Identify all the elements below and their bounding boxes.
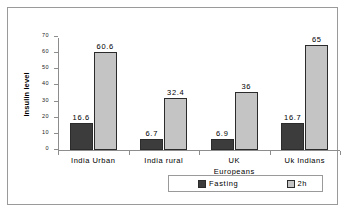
bar-value-label: 65 xyxy=(295,35,338,44)
y-axis-tick: 70 xyxy=(54,36,58,37)
y-axis-title-label: Insulin level xyxy=(22,72,31,116)
bar-value-label: 6.7 xyxy=(130,129,173,138)
bar-value-label: 36 xyxy=(225,82,268,91)
y-axis-tick: 50 xyxy=(54,68,58,69)
bar-value-label: 32.4 xyxy=(154,88,197,97)
bar-value-label: 60.6 xyxy=(84,42,127,51)
chart-frame: Insulin level 010203040506070 16.660.66.… xyxy=(7,7,338,205)
bar-fasting[interactable] xyxy=(70,123,93,150)
y-axis-tick-label: 0 xyxy=(46,145,49,151)
y-axis-tick: 60 xyxy=(54,52,58,53)
bar-value-label: 16.7 xyxy=(271,113,314,122)
y-axis-tick: 20 xyxy=(54,117,58,118)
y-axis-tick-label: 10 xyxy=(42,129,49,135)
bar-fasting[interactable] xyxy=(281,123,304,150)
y-axis-tick: 0 xyxy=(54,149,58,150)
y-axis-tick-label: 30 xyxy=(42,97,49,103)
fasting-swatch-icon xyxy=(198,180,206,188)
y-axis-tick: 40 xyxy=(54,84,58,85)
y-axis-tick-label: 50 xyxy=(42,64,49,70)
x-axis-category-label: Uk Indians xyxy=(260,155,347,166)
bar-twohour[interactable] xyxy=(164,98,187,150)
y-axis-title: Insulin level xyxy=(19,46,33,142)
bar-twohour[interactable] xyxy=(305,45,328,150)
legend-label-fasting: Fasting xyxy=(209,179,239,188)
bar-fasting[interactable] xyxy=(140,139,163,150)
legend-item-fasting[interactable]: Fasting xyxy=(198,179,239,188)
bar-twohour[interactable] xyxy=(235,92,258,150)
bar-value-label: 16.6 xyxy=(60,113,103,122)
y-axis-tick-label: 20 xyxy=(42,113,49,119)
y-axis-tick-label: 40 xyxy=(42,80,49,86)
twohour-swatch-icon xyxy=(287,180,295,188)
y-axis-tick-label: 60 xyxy=(42,48,49,54)
chart-legend: Fasting 2h xyxy=(168,175,323,192)
plot-area: 010203040506070 16.660.66.732.46.93616.7… xyxy=(58,38,340,151)
bar-value-label: 6.9 xyxy=(201,129,244,138)
legend-item-2h[interactable]: 2h xyxy=(287,179,308,188)
y-axis-tick: 30 xyxy=(54,101,58,102)
y-axis-line xyxy=(58,38,59,151)
y-axis-tick-label: 70 xyxy=(42,32,49,38)
bar-twohour[interactable] xyxy=(94,52,117,150)
y-axis-tick: 10 xyxy=(54,133,58,134)
bar-fasting[interactable] xyxy=(211,139,234,150)
legend-label-2h: 2h xyxy=(298,179,308,188)
